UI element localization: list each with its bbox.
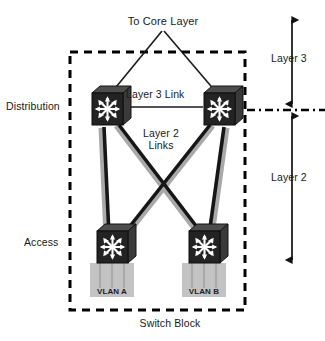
vlan-a-label: VLAN A [90, 288, 134, 297]
layer2-links-label-line2: Links [132, 140, 190, 152]
layer2-links-label: Layer 2 Links [132, 128, 190, 152]
core-layer-label: To Core Layer [103, 15, 223, 27]
switch-block-label: Switch Block [100, 318, 240, 330]
network-diagram: To Core Layer Layer 3 Link Layer 2 Links… [0, 0, 325, 341]
access-switch-left-icon [97, 224, 136, 263]
layer3-link-label: Layer 3 Link [126, 89, 184, 101]
distribution-switch-right-icon [204, 86, 243, 125]
core-uplink-left [112, 31, 162, 92]
layer2-label: Layer 2 [271, 172, 307, 184]
distribution-tier-label: Distribution [6, 101, 60, 113]
layer3-label: Layer 3 [271, 53, 307, 65]
access-switch-right-icon [189, 224, 228, 263]
access-tier-label: Access [24, 237, 58, 249]
vlan-b-label: VLAN B [182, 288, 226, 297]
core-uplink-right [164, 31, 216, 92]
layer2-links-label-line1: Layer 2 [132, 128, 190, 140]
